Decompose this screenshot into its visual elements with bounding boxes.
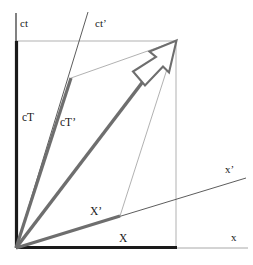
x-prime-axis-label: x’: [225, 163, 234, 175]
hollow-arrowhead-icon: [133, 41, 177, 86]
X-prime-vector: [16, 216, 120, 248]
cT-prime-vector-label: cT’: [60, 116, 76, 128]
ct-axis-label: ct: [20, 17, 28, 29]
spacetime-diagram: ct ct’ x x’ cT cT’ X X’: [0, 0, 253, 265]
cT-vector-label: cT: [22, 111, 34, 123]
X-vector-label: X: [119, 232, 128, 244]
primed-axes-group: [16, 12, 246, 248]
cT-prime-vector: [16, 78, 71, 248]
spacetime-diagram-canvas: ct ct’ x x’ cT cT’ X X’: [0, 0, 253, 265]
X-prime-vector-label: X’: [90, 205, 102, 217]
ct-prime-axis-label: ct’: [95, 17, 107, 29]
x-axis-label: x: [231, 231, 237, 243]
